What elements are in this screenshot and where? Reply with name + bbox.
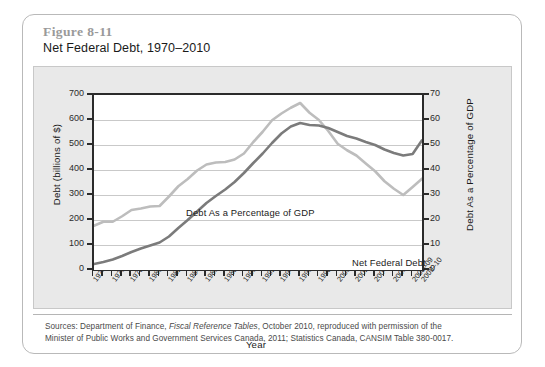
figure-number: Figure 8-11 <box>43 24 521 39</box>
y-tick-label-right: 10 <box>430 239 460 248</box>
y-tick-mark-right <box>424 193 429 195</box>
y-tick-label-right: 70 <box>430 89 460 98</box>
line-net-federal-debt <box>94 123 422 264</box>
y-tick-label-left: 300 <box>54 189 84 198</box>
y-tick-mark-right <box>424 93 429 95</box>
y-tick-mark-right <box>424 168 429 170</box>
y-tick-label-right: 50 <box>430 139 460 148</box>
y-tick-label-left: 700 <box>54 89 84 98</box>
y-tick-label-right: 30 <box>430 189 460 198</box>
figure-header: Figure 8-11 Net Federal Debt, 1970–2010 <box>23 15 521 57</box>
y-axis-right-title: Debt As a Percentage of GDP <box>464 85 475 245</box>
plot-area: Debt As a Percentage of GDP Net Federal … <box>92 93 424 271</box>
y-tick-mark-right <box>424 143 429 145</box>
source-text-a: Sources: Department of Finance, <box>45 322 169 331</box>
source-line-1: Sources: Department of Finance, Fiscal R… <box>45 321 500 333</box>
y-tick-mark-right <box>424 118 429 120</box>
figure-title: Net Federal Debt, 1970–2010 <box>43 40 521 57</box>
chart-panel: Debt (billions of $) Debt As a Percentag… <box>33 66 512 309</box>
series-lines <box>94 95 422 270</box>
y-tick-label-left: 500 <box>54 139 84 148</box>
y-tick-label-left: 400 <box>54 164 84 173</box>
source-text-c: , October 2010, reproduced with permissi… <box>258 322 442 331</box>
annotation-debt-series: Net Federal Debt <box>352 257 426 268</box>
y-tick-label-left: 100 <box>54 239 84 248</box>
figure-card: Figure 8-11 Net Federal Debt, 1970–2010 … <box>22 14 522 354</box>
y-tick-label-left: 200 <box>54 214 84 223</box>
plot-wrap: Debt (billions of $) Debt As a Percentag… <box>34 67 513 310</box>
y-tick-label-right: 40 <box>430 164 460 173</box>
y-tick-label-left: 0 <box>54 264 84 273</box>
y-tick-label-left: 600 <box>54 114 84 123</box>
y-tick-mark-right <box>424 243 429 245</box>
source-note: Sources: Department of Finance, Fiscal R… <box>33 314 512 344</box>
source-line-2: Minister of Public Works and Government … <box>45 333 500 345</box>
y-tick-label-right: 20 <box>430 214 460 223</box>
y-tick-label-right: 60 <box>430 114 460 123</box>
source-text-italic: Fiscal Reference Tables <box>169 322 258 331</box>
annotation-gdp-series: Debt As a Percentage of GDP <box>186 207 315 218</box>
y-tick-mark-right <box>424 218 429 220</box>
